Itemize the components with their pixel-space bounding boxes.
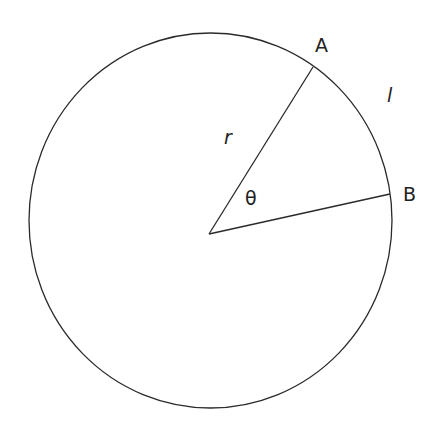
label-point-b: B — [403, 185, 416, 204]
label-arc-length: l — [387, 86, 392, 105]
label-angle: θ — [245, 189, 257, 208]
radius-to-b — [209, 194, 390, 234]
radius-to-a — [209, 67, 313, 234]
diagram-canvas — [0, 0, 442, 439]
circle — [29, 33, 392, 408]
label-point-a: A — [315, 36, 328, 55]
label-radius: r — [224, 128, 232, 147]
circle-diagram: A B r l θ — [0, 0, 442, 439]
